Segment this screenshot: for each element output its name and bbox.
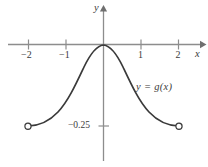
open-endpoint-left — [25, 123, 31, 129]
function-graph-figure: y x −2 −1 1 2 −0.25 y = g(x) — [0, 0, 208, 167]
y-axis-arrowhead — [100, 5, 107, 12]
x-axis-arrowhead — [200, 41, 207, 48]
y-axis-label: y — [94, 3, 99, 14]
open-endpoint-right — [176, 123, 182, 129]
x-axis-label: x — [195, 49, 200, 60]
curve-equation-label: y = g(x) — [136, 82, 172, 93]
graph-canvas — [0, 0, 208, 167]
x-tick-label--1: −1 — [59, 50, 70, 60]
y-tick-label--0.25: −0.25 — [68, 121, 90, 131]
x-tick-label--2: −2 — [21, 50, 32, 60]
x-tick-label-1: 1 — [138, 50, 143, 60]
x-tick-label-2: 2 — [176, 50, 181, 60]
